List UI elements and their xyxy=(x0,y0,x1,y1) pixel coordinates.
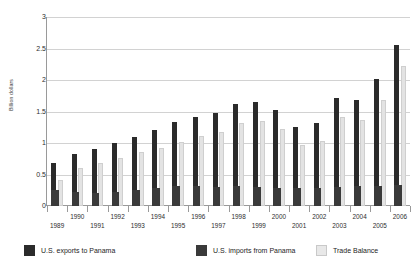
bar-us-imports xyxy=(51,190,59,206)
x-axis-tick-label: 2003 xyxy=(319,222,359,229)
x-axis-tick-label: 1997 xyxy=(198,222,238,229)
x-axis-tick-mark xyxy=(188,206,189,212)
legend-label: U.S. imports from Panama xyxy=(213,247,295,254)
legend-item-us-imports[interactable]: U.S. imports from Panama xyxy=(196,243,295,257)
y-axis-tick-label: 1 xyxy=(6,139,46,146)
legend-item-us-exports[interactable]: U.S. exports to Panama xyxy=(24,243,115,257)
y-axis-tick-label: 2 xyxy=(6,76,46,83)
bar-us-imports xyxy=(374,186,382,206)
x-axis-tick-mark xyxy=(229,206,230,212)
bar-us-imports xyxy=(273,188,281,206)
y-axis-tick-label: 0 xyxy=(6,202,46,209)
x-axis-tick-label: 1998 xyxy=(219,213,259,220)
trade-balance-bar-chart: Billion dollars 00.511.522.53 1989199019… xyxy=(0,0,416,267)
bar-group xyxy=(329,17,349,206)
x-axis-tick-mark xyxy=(269,206,270,212)
y-axis-tick-label: 0.5 xyxy=(6,171,46,178)
x-axis-tick-mark xyxy=(47,206,48,212)
x-axis-tick-label: 1995 xyxy=(158,222,198,229)
x-axis-tick-label: 2006 xyxy=(380,213,416,220)
x-axis-tick-label: 2000 xyxy=(259,213,299,220)
y-axis-tick-label: 1.5 xyxy=(6,108,46,115)
x-axis-tick-label: 2002 xyxy=(299,213,339,220)
bar-us-imports xyxy=(394,185,402,206)
bar-group xyxy=(208,17,228,206)
bar-us-imports xyxy=(253,187,261,206)
bar-us-imports xyxy=(354,186,362,206)
bar-us-imports xyxy=(314,188,322,206)
x-axis-tick-label: 1991 xyxy=(77,222,117,229)
x-axis-tick-mark xyxy=(128,206,129,212)
bar-us-imports xyxy=(112,192,120,206)
x-axis-tick-mark xyxy=(350,206,351,212)
bar-group xyxy=(67,17,87,206)
bar-group xyxy=(350,17,370,206)
bar-us-imports xyxy=(334,187,342,206)
bar-us-imports xyxy=(172,186,180,206)
bar-groups xyxy=(47,17,410,206)
legend-swatch-icon xyxy=(196,245,207,256)
x-axis-tick-mark xyxy=(249,206,250,212)
bar-group xyxy=(370,17,390,206)
bar-group xyxy=(87,17,107,206)
x-axis-tick-mark xyxy=(289,206,290,212)
x-axis-tick-mark xyxy=(329,206,330,212)
bar-group xyxy=(249,17,269,206)
legend-swatch-icon xyxy=(24,245,35,256)
bar-us-imports xyxy=(213,187,221,206)
x-axis-tick-label: 1999 xyxy=(239,222,279,229)
x-axis-tick-label: 2001 xyxy=(279,222,319,229)
x-axis-tick-mark xyxy=(410,206,411,212)
bar-group xyxy=(108,17,128,206)
x-axis-tick-mark xyxy=(390,206,391,212)
y-axis-tick-label: 3 xyxy=(6,13,46,20)
x-axis-tick-label: 2005 xyxy=(360,222,400,229)
legend-item-trade-balance[interactable]: Trade Balance xyxy=(316,243,378,257)
bar-us-exports xyxy=(394,45,399,206)
bar-group xyxy=(148,17,168,206)
legend-swatch-icon xyxy=(316,245,327,256)
bar-group xyxy=(128,17,148,206)
x-axis-tick-label: 1993 xyxy=(118,222,158,229)
bar-group xyxy=(229,17,249,206)
bar-us-imports xyxy=(92,193,100,206)
x-axis-tick-mark xyxy=(370,206,371,212)
bar-group xyxy=(47,17,67,206)
bar-group xyxy=(168,17,188,206)
bar-us-imports xyxy=(72,192,80,206)
x-axis-tick-label: 2004 xyxy=(340,213,380,220)
x-axis-tick-mark xyxy=(208,206,209,212)
bar-us-imports xyxy=(193,186,201,206)
y-axis-tick-label: 2.5 xyxy=(6,45,46,52)
chart-legend: U.S. exports to PanamaU.S. imports from … xyxy=(24,243,404,259)
x-axis-tick-mark xyxy=(108,206,109,212)
bar-us-imports xyxy=(293,188,301,206)
bar-group xyxy=(269,17,289,206)
x-axis-tick-mark xyxy=(168,206,169,212)
x-axis-tick-label: 1994 xyxy=(138,213,178,220)
bar-us-imports xyxy=(233,186,241,206)
bar-group xyxy=(188,17,208,206)
y-axis-title: Billion dollars xyxy=(8,60,14,130)
x-axis-tick-label: 1992 xyxy=(98,213,138,220)
bar-group xyxy=(289,17,309,206)
x-axis-tick-mark xyxy=(87,206,88,212)
bar-group xyxy=(390,17,410,206)
x-axis-tick-mark xyxy=(309,206,310,212)
bar-us-imports xyxy=(152,188,160,206)
x-axis-tick-label: 1990 xyxy=(57,213,97,220)
x-axis-tick-label: 1996 xyxy=(178,213,218,220)
x-axis-tick-labels: 1989199019911992199319941995199619971998… xyxy=(47,206,410,236)
x-axis-tick-label: 1989 xyxy=(37,222,77,229)
x-axis-tick-mark xyxy=(148,206,149,212)
bar-group xyxy=(309,17,329,206)
x-axis-tick-mark xyxy=(67,206,68,212)
bar-us-imports xyxy=(132,190,140,206)
legend-label: U.S. exports to Panama xyxy=(41,247,115,254)
legend-label: Trade Balance xyxy=(333,247,378,254)
